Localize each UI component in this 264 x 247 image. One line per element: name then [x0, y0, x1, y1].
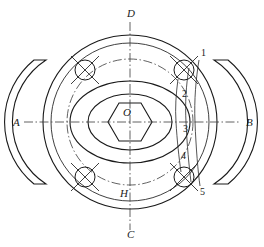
- bolt-hole-top-right: [170, 56, 198, 84]
- callout-label-4: 4: [181, 150, 186, 161]
- axis-label-b: B: [246, 116, 253, 128]
- axis-label-d: D: [126, 7, 135, 19]
- bolt-hole-bottom-right: [170, 163, 198, 191]
- callout-label-2: 2: [182, 88, 187, 99]
- leader-line-1: [195, 60, 200, 186]
- callout-label-1: 1: [201, 47, 206, 58]
- callout-label-3: 3: [183, 123, 188, 134]
- axis-label-h: H: [119, 187, 129, 199]
- axis-label-a: A: [12, 116, 20, 128]
- callout-label-5: 5: [200, 186, 205, 197]
- bolt-hole-bottom-left: [71, 163, 99, 191]
- drawing-svg: A B C D H O 1 2 3 4 5: [0, 0, 264, 247]
- center-label-o: O: [123, 106, 131, 118]
- axis-label-c: C: [127, 228, 135, 240]
- engineering-drawing-canvas: A B C D H O 1 2 3 4 5: [0, 0, 264, 247]
- bolt-hole-top-left: [71, 56, 99, 84]
